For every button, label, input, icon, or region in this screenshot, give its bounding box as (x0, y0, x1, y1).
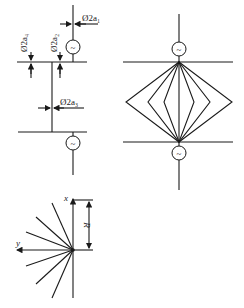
x-axis-label: x (63, 193, 68, 203)
source-icon-bottom-left: ~ (66, 136, 80, 150)
source-icon-top-right: ~ (172, 42, 186, 56)
svg-text:~: ~ (71, 139, 76, 149)
svg-text:~: ~ (177, 149, 182, 159)
dimension-a2: Ø2a₂ (49, 34, 60, 78)
r-label: R (82, 221, 92, 228)
coordinate-figure: x y R (15, 193, 93, 298)
left-antenna-figure: ~ ~ Ø2a₁ Ø2a₄ (17, 5, 100, 175)
label-a1: Ø2a₁ (82, 13, 100, 23)
dimension-r: R (73, 200, 93, 250)
dimension-a1: Ø2a₁ (60, 13, 100, 24)
diagram-canvas: ~ ~ Ø2a₁ Ø2a₄ (0, 0, 244, 308)
right-diamond-figure: ~ ~ (123, 14, 233, 190)
label-a2: Ø2a₂ (49, 34, 59, 52)
dimension-a4: Ø2a₄ (19, 34, 31, 78)
svg-text:~: ~ (177, 45, 182, 55)
y-axis-label: y (15, 238, 20, 248)
source-icon-top-left: ~ (66, 40, 80, 54)
label-a3: Ø2a₃ (60, 97, 78, 107)
label-a4: Ø2a₄ (19, 34, 29, 52)
svg-text:~: ~ (71, 43, 76, 53)
source-icon-bottom-right: ~ (172, 146, 186, 160)
dimension-a3: Ø2a₃ (38, 97, 84, 108)
